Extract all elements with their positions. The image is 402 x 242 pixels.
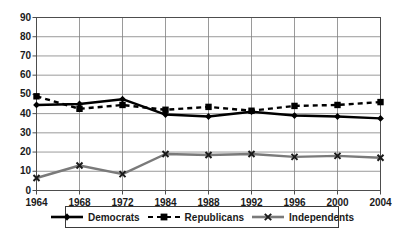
legend-swatch-republicans — [147, 211, 181, 223]
y-axis-tick-label: 0 — [2, 185, 31, 196]
y-axis-tick-label: 80 — [2, 31, 31, 42]
y-axis-tick-label: 30 — [2, 127, 31, 138]
legend-swatch-independents — [251, 211, 285, 223]
y-axis-tick-label: 60 — [2, 69, 31, 80]
y-axis-tick-label: 10 — [2, 165, 31, 176]
y-axis-tick-label: 90 — [2, 12, 31, 23]
x-axis-ticks — [37, 191, 381, 195]
chart-legend: Democrats Republicans Independents — [65, 206, 339, 228]
line-chart: 0102030405060708090 19641968197219841988… — [0, 0, 402, 242]
legend-swatch-democrats — [50, 211, 84, 223]
legend-item-independents[interactable]: Independents — [251, 211, 354, 223]
legend-item-republicans[interactable]: Republicans — [147, 211, 244, 223]
y-axis-tick-label: 70 — [2, 50, 31, 61]
x-axis-tick-label: 1964 — [15, 197, 59, 208]
legend-label-republicans: Republicans — [185, 212, 244, 223]
x-axis-tick-label: 2004 — [359, 197, 402, 208]
legend-item-democrats[interactable]: Democrats — [50, 211, 140, 223]
legend-label-democrats: Democrats — [88, 212, 140, 223]
y-axis-tick-label: 20 — [2, 146, 31, 157]
legend-label-independents: Independents — [289, 212, 354, 223]
y-axis-tick-label: 40 — [2, 108, 31, 119]
y-axis-tick-label: 50 — [2, 88, 31, 99]
